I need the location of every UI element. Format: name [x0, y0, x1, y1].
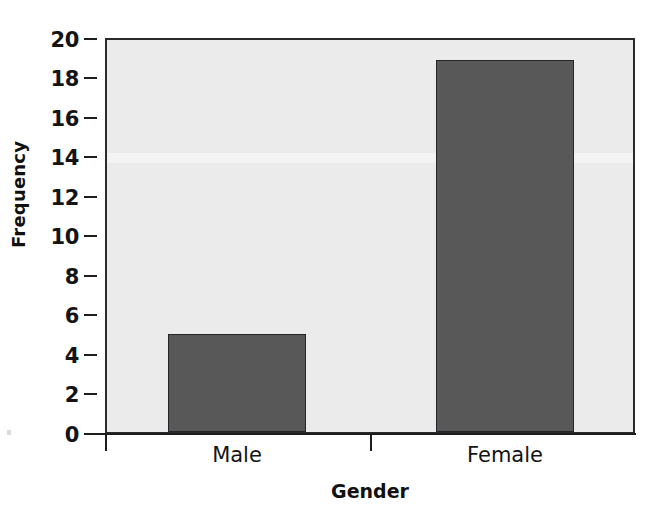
y-tick-mark-8: [84, 275, 97, 277]
x-tick-label-male: Male: [212, 443, 262, 467]
x-axis-line: [96, 433, 636, 435]
y-tick-mark-4: [84, 354, 97, 356]
y-tick-mark-2: [84, 393, 97, 395]
plot-area: [105, 38, 635, 434]
y-tick-mark-18: [84, 77, 97, 79]
y-tick-label-0: 0: [65, 423, 79, 447]
y-tick-label-4: 4: [65, 344, 79, 368]
y-tick-label-18: 18: [50, 67, 79, 91]
y-tick-label-12: 12: [50, 186, 79, 210]
y-tick-label-6: 6: [65, 304, 79, 328]
bar-chart-figure: 20 18 16 14 12 10 8 6 4 2 0 Frequency Ma…: [0, 0, 652, 516]
y-tick-mark-20: [84, 38, 97, 40]
bar-female: [436, 60, 574, 432]
y-axis: 20 18 16 14 12 10 8 6 4 2 0: [0, 0, 105, 516]
y-tick-mark-12: [84, 196, 97, 198]
y-tick-label-14: 14: [50, 146, 79, 170]
x-axis-title: Gender: [331, 480, 409, 502]
y-tick-label-20: 20: [50, 28, 79, 52]
y-tick-label-16: 16: [50, 107, 79, 131]
y-tick-label-8: 8: [65, 265, 79, 289]
scan-artifact-speck: [7, 430, 11, 435]
y-tick-mark-6: [84, 314, 97, 316]
bar-male: [168, 334, 306, 432]
y-tick-label-2: 2: [65, 383, 79, 407]
x-tick-mark-middle: [370, 434, 372, 451]
y-tick-mark-14: [84, 156, 97, 158]
y-tick-mark-16: [84, 117, 97, 119]
y-axis-title: Frequency: [8, 141, 29, 248]
x-tick-mark-left: [105, 434, 107, 451]
x-tick-label-female: Female: [467, 443, 543, 467]
y-tick-mark-10: [84, 235, 97, 237]
y-tick-label-10: 10: [50, 225, 79, 249]
